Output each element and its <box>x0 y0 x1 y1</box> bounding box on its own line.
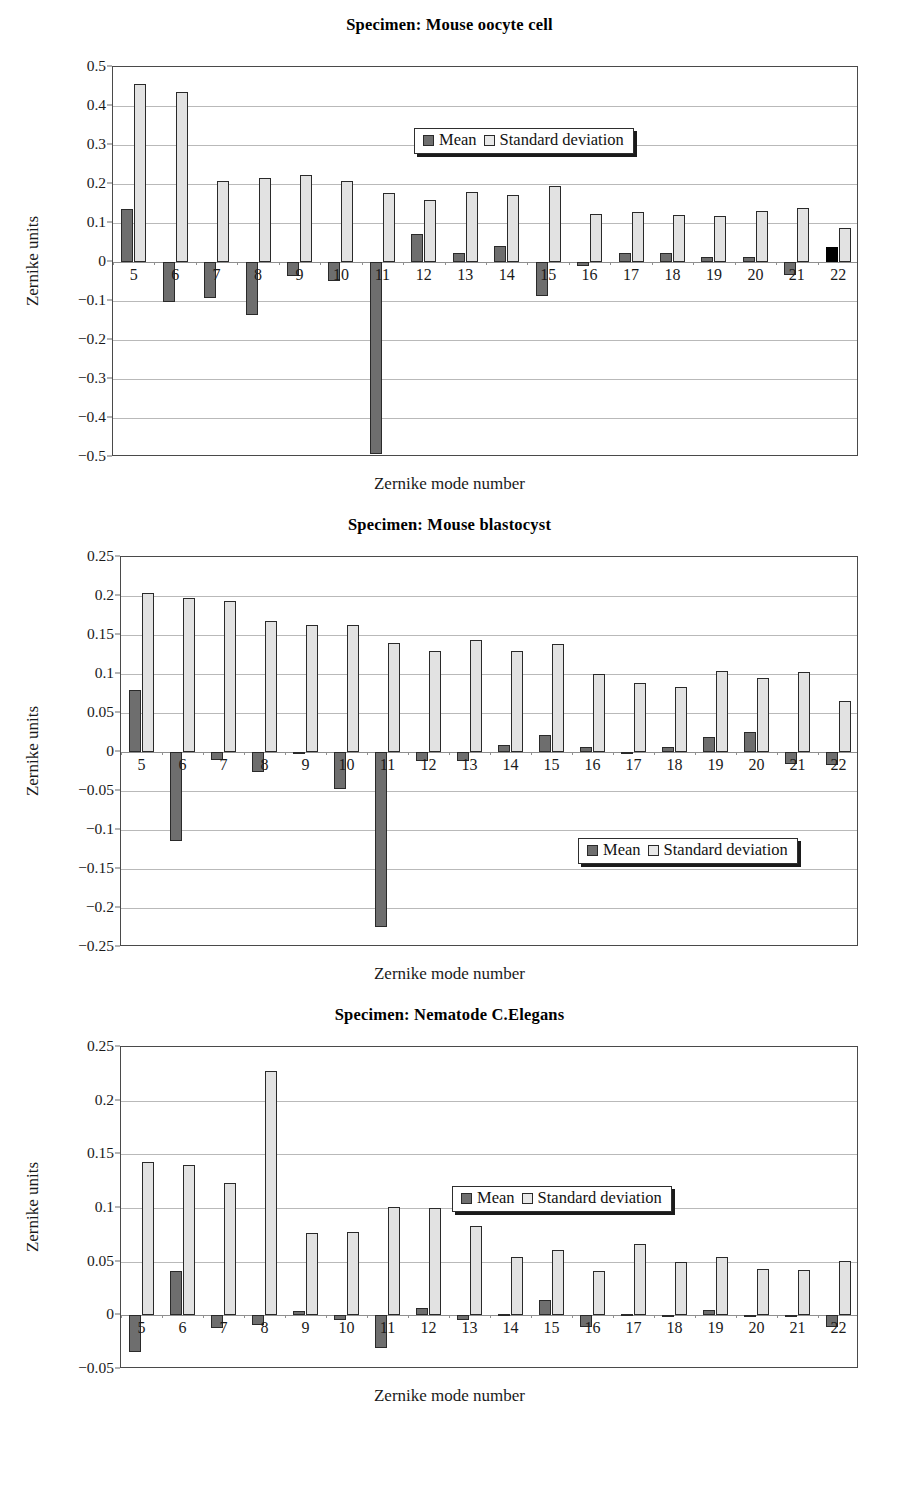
bar-std <box>756 211 768 262</box>
legend-swatch-std-icon <box>522 1193 533 1204</box>
y-tick-label: −0.2 <box>86 898 114 916</box>
bar-std <box>300 175 312 262</box>
y-tick-label: −0.25 <box>78 937 114 955</box>
x-tick-mark <box>244 752 245 755</box>
bar-mean <box>121 209 133 262</box>
x-axis-title: Zernike mode number <box>0 964 899 984</box>
legend-item-mean: Mean <box>423 132 477 149</box>
bar-std <box>347 1232 359 1316</box>
gridline <box>113 106 857 107</box>
chart-legend: MeanStandard deviation <box>452 1186 672 1212</box>
bar-std <box>552 1250 564 1315</box>
x-tick-mark <box>652 262 653 265</box>
x-tick-mark <box>486 262 487 265</box>
y-axis-title: Zernike units <box>18 556 48 946</box>
bar-mean <box>662 747 674 752</box>
y-tick-label: 0.5 <box>87 57 106 75</box>
x-tick-label: 11 <box>380 1319 395 1337</box>
gridline <box>113 379 857 380</box>
gridline <box>121 830 857 831</box>
x-tick-mark <box>693 262 694 265</box>
bar-std <box>347 625 359 752</box>
x-tick-mark <box>527 262 528 265</box>
y-axis-ticks: 0.250.20.150.10.050−0.05−0.1−0.15−0.2−0.… <box>64 556 120 946</box>
x-tick-label: 6 <box>179 1319 187 1337</box>
bar-std <box>797 208 809 262</box>
x-tick-mark <box>162 752 163 755</box>
y-tick-label: 0.1 <box>95 664 114 682</box>
x-tick-mark <box>610 262 611 265</box>
bar-mean <box>621 752 633 754</box>
x-tick-mark <box>449 1315 450 1318</box>
x-tick-mark <box>196 262 197 265</box>
bar-std <box>388 643 400 752</box>
x-tick-label: 14 <box>499 266 515 284</box>
plot-area: 5678910111213141516171819202122 <box>112 66 858 456</box>
x-tick-mark <box>326 1315 327 1318</box>
x-tick-label: 20 <box>749 1319 765 1337</box>
x-tick-mark <box>326 752 327 755</box>
legend-swatch-mean-icon <box>587 845 598 856</box>
bar-std <box>388 1207 400 1315</box>
x-tick-label: 16 <box>582 266 598 284</box>
bar-mean <box>744 732 756 752</box>
x-tick-label: 11 <box>380 756 395 774</box>
x-tick-label: 20 <box>747 266 763 284</box>
x-tick-mark <box>121 752 122 755</box>
y-tick-label: −0.1 <box>78 291 106 309</box>
x-tick-mark <box>736 752 737 755</box>
gridline <box>121 908 857 909</box>
x-tick-label: 11 <box>375 266 390 284</box>
bar-mean <box>785 1315 797 1317</box>
x-tick-mark <box>777 1315 778 1318</box>
bar-std <box>675 687 687 752</box>
gridline <box>113 340 857 341</box>
gridline <box>113 418 857 419</box>
x-tick-label: 21 <box>789 266 805 284</box>
x-tick-mark <box>735 262 736 265</box>
x-tick-label: 21 <box>790 1319 806 1337</box>
bar-std <box>757 678 769 752</box>
gridline <box>121 596 857 597</box>
x-tick-label: 17 <box>626 756 642 774</box>
x-tick-label: 7 <box>220 1319 228 1337</box>
x-tick-mark <box>613 752 614 755</box>
bar-mean <box>539 1300 551 1315</box>
x-tick-mark <box>113 262 114 265</box>
x-tick-mark <box>154 262 155 265</box>
x-tick-mark <box>237 262 238 265</box>
bar-std <box>716 1257 728 1315</box>
x-tick-label: 14 <box>503 1319 519 1337</box>
x-tick-label: 18 <box>667 1319 683 1337</box>
y-tick-label: 0.1 <box>95 1198 114 1216</box>
bar-std <box>511 1257 523 1315</box>
bar-std <box>552 644 564 752</box>
x-tick-label: 9 <box>302 756 310 774</box>
bar-mean <box>826 247 838 262</box>
bar-mean <box>170 1271 182 1315</box>
legend-swatch-std-icon <box>484 135 495 146</box>
bar-mean <box>411 234 423 262</box>
x-tick-mark <box>408 1315 409 1318</box>
bar-std <box>634 683 646 752</box>
x-tick-label: 6 <box>179 756 187 774</box>
legend-label-mean: Mean <box>439 132 477 149</box>
bar-mean <box>619 253 631 262</box>
bar-std <box>590 214 602 262</box>
x-tick-mark <box>531 752 532 755</box>
bar-std <box>224 1183 236 1315</box>
y-tick-label: 0.4 <box>87 96 106 114</box>
y-tick-label: 0.05 <box>87 1252 114 1270</box>
x-tick-label: 12 <box>421 1319 437 1337</box>
bar-mean <box>416 1308 428 1316</box>
x-tick-label: 12 <box>416 266 432 284</box>
x-tick-mark <box>818 752 819 755</box>
bar-std <box>424 200 436 262</box>
gridline <box>121 869 857 870</box>
bar-mean <box>701 257 713 262</box>
bar-std <box>716 671 728 752</box>
bar-mean <box>580 747 592 752</box>
bar-std <box>306 625 318 752</box>
x-tick-label: 8 <box>254 266 262 284</box>
x-tick-mark <box>818 1315 819 1318</box>
